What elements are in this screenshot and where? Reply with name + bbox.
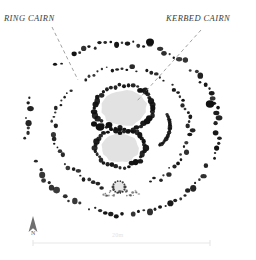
stone <box>27 106 34 111</box>
stone <box>95 95 100 100</box>
stone <box>120 212 124 216</box>
stone <box>114 191 116 193</box>
stone <box>91 180 96 184</box>
stone <box>157 47 163 51</box>
stone <box>106 131 110 134</box>
stone <box>122 84 126 88</box>
stone <box>115 68 119 71</box>
stone <box>26 131 29 135</box>
stone <box>28 96 30 99</box>
stone <box>113 194 115 195</box>
stone <box>27 127 30 130</box>
stone <box>122 181 124 183</box>
stone <box>168 167 170 169</box>
large-stone <box>118 131 123 135</box>
stone <box>88 74 91 78</box>
stone <box>166 172 171 177</box>
stone <box>121 41 124 44</box>
stone <box>109 190 111 192</box>
stone <box>101 131 106 135</box>
stone <box>167 200 173 206</box>
stone <box>185 124 189 129</box>
stone <box>131 83 136 87</box>
large-stone <box>91 121 97 126</box>
stone <box>200 174 206 178</box>
stone <box>60 63 63 65</box>
stone <box>98 155 101 158</box>
stone <box>213 157 216 160</box>
stone <box>34 160 38 163</box>
stone <box>161 51 167 56</box>
stone <box>135 70 137 72</box>
stone <box>132 41 134 43</box>
stone <box>57 147 59 149</box>
stone <box>112 188 115 191</box>
stone <box>109 41 112 44</box>
stone <box>159 179 163 182</box>
stone <box>183 194 186 197</box>
stone <box>53 143 55 145</box>
stone <box>78 51 81 54</box>
stone <box>209 91 215 95</box>
stone <box>27 101 30 104</box>
stone <box>81 46 86 51</box>
stone <box>118 190 121 192</box>
stone <box>125 69 128 71</box>
stone <box>169 53 171 55</box>
stone <box>106 162 110 166</box>
stone <box>114 42 119 48</box>
stone <box>176 162 180 166</box>
stone <box>180 103 184 107</box>
stone <box>53 187 60 194</box>
stone <box>120 180 122 182</box>
stone <box>183 145 185 148</box>
kerbed-cairn-label: KERBED CAIRN <box>166 13 230 23</box>
stone <box>26 120 32 126</box>
stone <box>111 69 114 73</box>
stone <box>117 180 119 182</box>
stone <box>109 128 113 131</box>
stone <box>152 177 156 180</box>
stone <box>112 195 114 196</box>
stone <box>213 111 219 115</box>
stone <box>94 47 97 50</box>
stone <box>110 162 115 167</box>
stone <box>180 158 183 161</box>
stone <box>79 175 81 177</box>
stone <box>82 177 86 181</box>
stone <box>184 108 187 110</box>
stone <box>114 181 116 183</box>
stone <box>165 205 167 207</box>
stone <box>122 128 126 131</box>
stone <box>72 167 76 171</box>
stone <box>113 183 115 185</box>
stone <box>123 183 125 185</box>
stone <box>179 95 181 98</box>
stone <box>63 96 66 99</box>
stone <box>52 116 55 118</box>
stone <box>60 99 62 101</box>
stone <box>108 194 110 196</box>
stone <box>123 188 125 190</box>
stone <box>133 195 134 196</box>
stone <box>91 109 98 114</box>
stone <box>69 89 72 92</box>
stone <box>179 197 182 200</box>
stone <box>173 56 175 58</box>
stone <box>66 92 68 94</box>
stone <box>149 181 152 183</box>
stone <box>129 161 135 166</box>
stone <box>172 165 176 169</box>
stone <box>127 165 131 168</box>
stone <box>213 130 219 135</box>
stone <box>76 169 82 173</box>
stone <box>138 193 141 195</box>
stone <box>188 120 191 123</box>
stone <box>210 96 216 100</box>
stone <box>54 112 56 114</box>
stone <box>118 166 121 170</box>
stone <box>50 119 53 122</box>
stone <box>145 69 148 72</box>
stone <box>114 85 118 90</box>
stone <box>87 177 91 181</box>
